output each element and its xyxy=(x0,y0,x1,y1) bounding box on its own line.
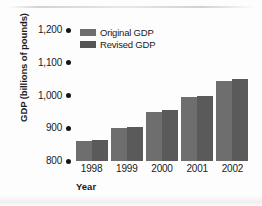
bar-group-2002 xyxy=(216,30,248,161)
bar-2001-original[interactable] xyxy=(181,97,197,161)
scan-artifact-bottom xyxy=(0,196,262,206)
y-tick-label-900: 900 xyxy=(16,122,62,133)
bar-1998-original[interactable] xyxy=(76,141,92,161)
x-axis-title: Year xyxy=(76,181,96,192)
y-tick-marker-1200 xyxy=(66,28,71,33)
bar-2000-original[interactable] xyxy=(146,112,162,161)
bar-2002-original[interactable] xyxy=(216,81,232,161)
y-tick-marker-1100 xyxy=(66,60,71,65)
bar-1998-revised[interactable] xyxy=(92,140,108,161)
legend-swatch-revised-icon xyxy=(80,41,96,48)
bar-2001-revised[interactable] xyxy=(197,96,213,162)
legend-label-original: Original GDP xyxy=(100,27,154,38)
bar-2002-revised[interactable] xyxy=(232,79,248,161)
chart-legend: Original GDP Revised GDP xyxy=(80,27,155,51)
legend-item-revised[interactable]: Revised GDP xyxy=(80,39,155,50)
legend-label-revised: Revised GDP xyxy=(100,39,155,50)
bar-1999-original[interactable] xyxy=(111,128,127,161)
y-tick-label-1100: 1,100 xyxy=(16,57,62,68)
y-tick-marker-1000 xyxy=(66,93,71,98)
x-tick-label-2002: 2002 xyxy=(210,163,254,174)
y-tick-marker-900 xyxy=(66,126,71,131)
scan-artifact-top xyxy=(8,6,256,8)
bar-group-2001 xyxy=(181,30,213,161)
y-tick-label-800: 800 xyxy=(16,155,62,166)
y-tick-label-1200: 1,200 xyxy=(16,24,62,35)
y-tick-label-1000: 1,000 xyxy=(16,90,62,101)
bar-2000-revised[interactable] xyxy=(162,110,178,161)
bar-1999-revised[interactable] xyxy=(127,127,143,161)
gdp-bar-chart: GDP (billions of pounds) 8009001,0001,10… xyxy=(0,0,262,206)
legend-swatch-original-icon xyxy=(80,29,96,36)
legend-item-original[interactable]: Original GDP xyxy=(80,27,155,38)
